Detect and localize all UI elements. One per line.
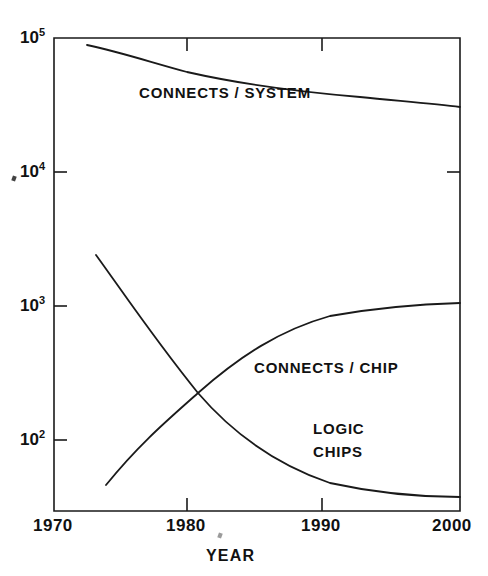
- y-tick-label-1e5: 105: [20, 28, 45, 48]
- series-label-chips: CHIPS: [313, 443, 363, 460]
- series-label-logic: LOGIC: [313, 420, 365, 437]
- x-tick-label-1970: 1970: [33, 516, 73, 536]
- figure-chart: 105 104 103 102 1970 1980 1990 2000 YEAR…: [0, 0, 488, 576]
- series-line-logic-chips: [96, 255, 460, 497]
- x-tick-label-1990: 1990: [301, 516, 341, 536]
- plot-frame: [54, 38, 460, 511]
- y-tick-label-1e2: 102: [20, 430, 45, 450]
- x-tick-label-1980: 1980: [166, 516, 206, 536]
- y-tick-label-1e4: 104: [20, 162, 45, 182]
- y-tick-label-1e3: 103: [20, 296, 45, 316]
- series-label-connects-system: CONNECTS / SYSTEM: [139, 84, 311, 101]
- x-axis-ticks: [187, 38, 322, 511]
- x-tick-label-2000: 2000: [432, 516, 472, 536]
- series-line-connects-chip: [106, 303, 460, 485]
- series-label-connects-chip: CONNECTS / CHIP: [254, 359, 399, 376]
- x-axis-title: YEAR: [206, 547, 255, 565]
